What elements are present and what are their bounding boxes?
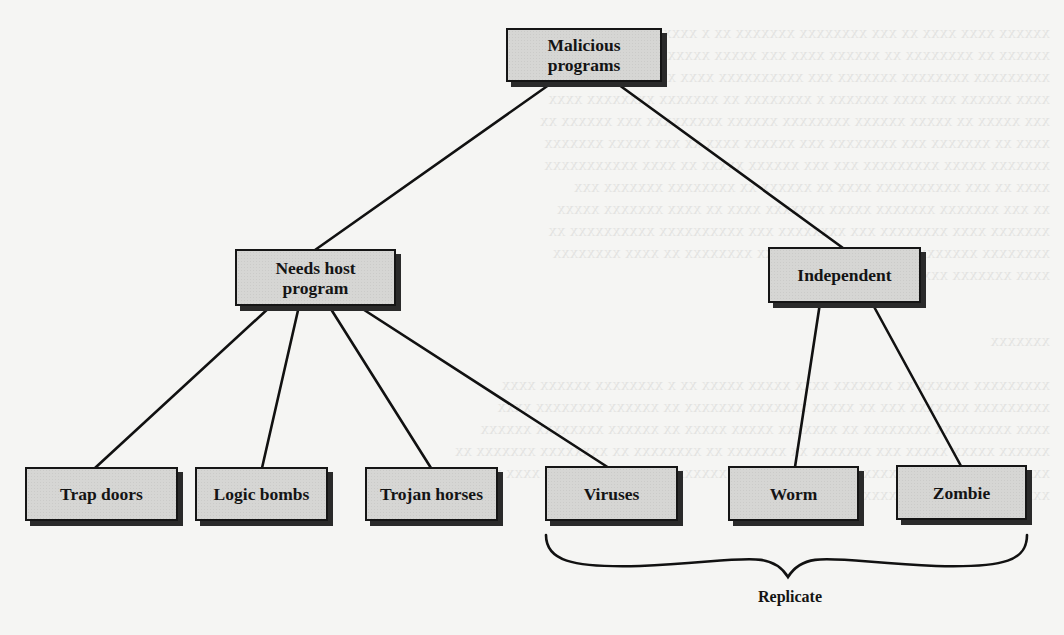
connector-lines (0, 0, 1064, 635)
node-label: Trojan horses (380, 484, 483, 504)
edge-root-needs-host (315, 82, 553, 250)
edge-needs-host-trojan-horses (329, 306, 431, 468)
node-label: Viruses (584, 484, 640, 504)
node-trap-doors: Trap doors (25, 467, 178, 521)
diagram-canvas: xxxxxx xxxx xxxx xx xxx xxxxxxxx xxxxxxx… (0, 0, 1064, 635)
node-needs-host-program: Needs host program (235, 249, 396, 306)
node-label-line1: Needs host (275, 258, 355, 278)
node-zombie: Zombie (896, 465, 1027, 520)
node-viruses: Viruses (545, 466, 678, 521)
node-label: Independent (797, 265, 891, 285)
node-label: Trap doors (60, 484, 143, 504)
node-trojan-horses: Trojan horses (365, 467, 498, 521)
replicate-brace (546, 535, 1027, 577)
node-worm: Worm (728, 466, 859, 521)
node-label-line2: programs (548, 55, 621, 75)
node-label: Logic bombs (214, 484, 310, 504)
node-label: Zombie (933, 483, 990, 503)
edge-root-independent (615, 82, 843, 248)
node-logic-bombs: Logic bombs (195, 467, 328, 521)
node-malicious-programs: Malicious programs (506, 28, 662, 82)
replicate-label: Replicate (740, 588, 840, 606)
node-label: Worm (770, 484, 818, 504)
node-label-line2: program (275, 278, 355, 298)
edge-needs-host-trap-doors (95, 306, 271, 468)
node-label-line1: Malicious (548, 35, 621, 55)
edge-needs-host-viruses (358, 306, 609, 468)
edge-needs-host-logic-bombs (262, 306, 299, 468)
edge-independent-zombie (872, 303, 961, 466)
edge-independent-worm (795, 303, 820, 467)
node-independent: Independent (768, 247, 921, 303)
